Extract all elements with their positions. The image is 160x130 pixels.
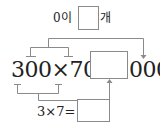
main-answer-box[interactable] [90,51,128,79]
zero-count-answer-box[interactable] [78,6,99,30]
main-zeros-suffix: 000 [129,58,160,82]
zero-count-prefix: 0이 [53,11,72,25]
bottom-expression: 3×7= [37,104,75,119]
bottom-answer-box[interactable] [77,99,110,122]
zero-count-suffix: 개 [100,11,111,25]
